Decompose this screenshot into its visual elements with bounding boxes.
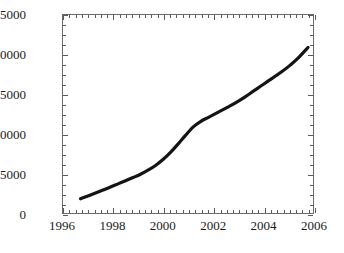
x-major-tick-top xyxy=(315,15,316,20)
y-tick-label: 5000 xyxy=(0,168,26,181)
x-major-tick xyxy=(315,208,316,213)
y-major-tick-right xyxy=(308,215,313,216)
y-tick-label: 25000 xyxy=(0,8,26,21)
line-chart-figure: 0 5000 10000 15000 20000 25000 1996 1998… xyxy=(0,0,344,253)
series-line-1 xyxy=(81,47,309,198)
y-tick-label: 15000 xyxy=(0,88,26,101)
data-series-layer xyxy=(63,15,313,213)
y-tick-label: 20000 xyxy=(0,48,26,61)
x-tick-label: 2006 xyxy=(284,219,344,232)
y-major-tick xyxy=(63,215,68,216)
plot-area xyxy=(62,14,314,214)
series-svg xyxy=(63,15,313,213)
y-tick-label: 10000 xyxy=(0,128,26,141)
y-tick-label: 0 xyxy=(0,208,26,221)
